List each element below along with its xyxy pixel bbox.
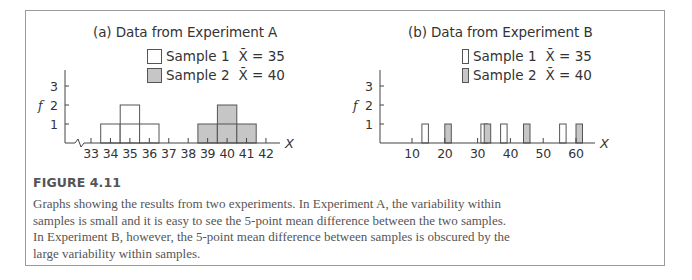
- x-tick-label: 40: [503, 146, 519, 161]
- caption-line: samples is small and it is easy to see t…: [33, 213, 633, 230]
- chart-a-plot: 123f33343536373839404142X: [37, 70, 295, 161]
- histogram-bar: [524, 124, 531, 143]
- chart-b-plot: 123f102030405060X: [352, 70, 610, 161]
- x-tick-label: 37: [161, 146, 176, 161]
- x-tick-label: 34: [103, 146, 119, 161]
- histogram-bar: [484, 124, 491, 143]
- x-tick-label: 50: [536, 146, 552, 161]
- axis-break-icon: [65, 139, 84, 147]
- histogram-bar: [422, 124, 429, 143]
- figure-label: FIGURE 4.11: [33, 175, 121, 190]
- y-tick-label: 3: [50, 79, 58, 94]
- x-tick-label: 39: [200, 146, 216, 161]
- histogram-bar: [560, 124, 567, 143]
- y-tick-label: 2: [50, 98, 58, 113]
- y-tick-label: 1: [365, 117, 373, 132]
- x-tick-label: 36: [142, 146, 158, 161]
- figure-caption: Graphs showing the results from two expe…: [33, 196, 633, 262]
- x-tick-label: 30: [470, 146, 486, 161]
- histogram-bar: [576, 124, 583, 143]
- x-tick-label: 33: [83, 146, 98, 161]
- x-tick-label: 41: [239, 146, 254, 161]
- caption-line: large variability within samples.: [33, 246, 633, 263]
- y-tick-label: 3: [365, 79, 373, 94]
- histogram-bar: [501, 124, 508, 143]
- y-tick-label: 1: [50, 117, 58, 132]
- y-tick-label: 2: [365, 98, 373, 113]
- x-tick-label: 35: [122, 146, 137, 161]
- x-tick-label: 42: [258, 146, 273, 161]
- y-axis-label: f: [37, 98, 45, 113]
- x-tick-label: 10: [404, 146, 420, 161]
- x-axis-label: X: [599, 136, 610, 151]
- caption-line: Graphs showing the results from two expe…: [33, 196, 633, 213]
- x-tick-label: 60: [568, 146, 584, 161]
- x-tick-label: 20: [437, 146, 453, 161]
- x-tick-label: 40: [219, 146, 235, 161]
- histogram-bar: [445, 124, 452, 143]
- caption-line: In Experiment B, however, the 5-point me…: [33, 229, 633, 246]
- y-axis-label: f: [352, 98, 360, 113]
- x-axis-label: X: [284, 136, 295, 151]
- x-tick-label: 38: [181, 146, 197, 161]
